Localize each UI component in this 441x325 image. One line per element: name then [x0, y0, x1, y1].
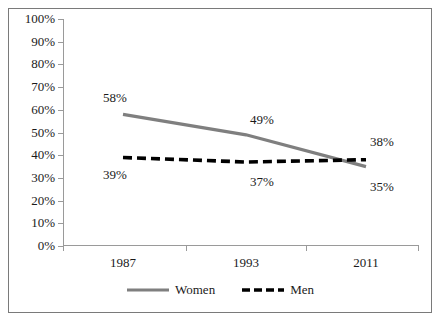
y-axis-tick-label: 80%: [31, 55, 55, 72]
chart-frame: 100%90%80%70%60%50%40%30%20%10%0% 198719…: [8, 8, 432, 313]
x-axis-tick-label: 1987: [110, 255, 136, 271]
y-axis-tick-label: 0%: [38, 237, 55, 254]
y-axis-tick-label: 50%: [31, 124, 55, 141]
y-axis-tick-label: 100%: [25, 10, 55, 27]
y-axis-tick-label: 40%: [31, 146, 55, 163]
y-axis-tick-label: 20%: [31, 192, 55, 209]
legend-entry-men[interactable]: Men: [241, 282, 314, 298]
legend-entry-women[interactable]: Women: [126, 282, 215, 298]
legend-label-men: Men: [290, 282, 314, 298]
data-label-women-2011: 35%: [370, 179, 394, 195]
x-axis-tick: [306, 246, 307, 251]
x-axis-tick: [63, 246, 64, 251]
data-label-women-1987: 58%: [103, 90, 127, 106]
x-axis-tick-label: 2011: [353, 255, 379, 271]
y-axis-tick-label: 90%: [31, 33, 55, 50]
y-axis-tick-label: 60%: [31, 101, 55, 118]
legend-swatch-men-icon: [241, 285, 285, 295]
legend-swatch-women-icon: [126, 285, 170, 295]
legend-label-women: Women: [175, 282, 215, 298]
data-label-men-2011: 38%: [370, 134, 394, 150]
data-label-women-1993: 49%: [250, 112, 274, 128]
series-lines: [63, 19, 419, 246]
y-axis-tick-label: 70%: [31, 78, 55, 95]
x-axis-tick: [186, 246, 187, 251]
x-axis-tick: [418, 246, 419, 251]
data-label-men-1993: 37%: [250, 174, 274, 190]
plot-area: 100%90%80%70%60%50%40%30%20%10%0% 198719…: [63, 19, 419, 246]
data-label-men-1987: 39%: [103, 167, 127, 183]
chart-legend: Women Men: [9, 282, 431, 298]
x-axis-tick-label: 1993: [233, 255, 259, 271]
y-axis-tick-label: 30%: [31, 169, 55, 186]
y-axis-tick-label: 10%: [31, 214, 55, 231]
